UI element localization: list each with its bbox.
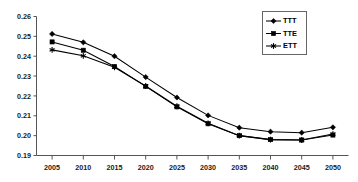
x-tick-label: 2005 [44,163,60,172]
y-tick-label: 0.22 [17,92,31,101]
chart-legend[interactable]: TTTTTEETT [263,12,307,55]
data-point-tte-2005 [50,40,54,44]
line-chart: 0.190.200.210.220.230.240.250.26 2005201… [0,0,358,182]
y-tick-label: 0.26 [17,12,31,21]
x-tick-label: 2030 [200,163,216,172]
legend-label: ETT [283,41,297,50]
x-tick-label: 2015 [107,163,123,172]
x-tick-label: 2010 [75,163,91,172]
chart-figure: 0.190.200.210.220.230.240.250.26 2005201… [0,0,358,182]
x-tick-label: 2035 [231,163,247,172]
y-tick-label: 0.19 [17,151,31,160]
y-tick-label: 0.24 [17,52,31,61]
x-tick-label: 2020 [138,163,154,172]
y-tick-label: 0.23 [17,72,31,81]
legend-label: TTT [283,16,297,25]
x-tick-label: 2025 [169,163,185,172]
legend-label: TTE [283,29,297,38]
x-tick-label: 2040 [263,163,279,172]
y-tick-label: 0.20 [17,131,31,140]
data-point-tte-2010 [81,48,85,52]
legend-marker-square-icon [271,31,275,35]
x-tick-label: 2050 [325,163,341,172]
y-tick-label: 0.21 [17,111,31,120]
y-tick-label: 0.25 [17,32,31,41]
x-tick-label: 2045 [294,163,310,172]
